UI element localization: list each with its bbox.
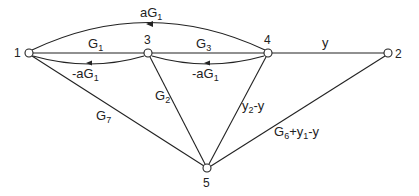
node-2 [384, 49, 392, 57]
edge-label-4-1: aG1 [140, 5, 162, 22]
arrow-icon [86, 61, 92, 66]
edge-label-4-5: y2-y [242, 98, 265, 115]
node-label-1: 1 [14, 46, 21, 60]
edge-label-3-4: G3 [196, 36, 211, 53]
edge-label-1-5: G7 [96, 108, 111, 125]
arrow-icon [204, 61, 210, 66]
node-label-3: 3 [144, 33, 151, 47]
edge-label-1-3: G1 [88, 36, 103, 53]
edge-label-4-3: -aG1 [192, 66, 219, 83]
node-1 [25, 49, 33, 57]
arrow-icon [146, 21, 153, 27]
node-5 [203, 164, 211, 172]
node-3 [144, 49, 152, 57]
edge-label-4-2: y [322, 35, 329, 50]
edge-label-3-5: G2 [155, 88, 170, 105]
edge-label-3-1: -aG1 [72, 66, 99, 83]
edge-label-2-5: G6+y1-y [274, 124, 320, 141]
node-label-5: 5 [203, 176, 210, 190]
signal-flow-graph: 1 3 4 2 5 aG1 G1 -aG1 G3 -aG1 y G7 G2 y2… [0, 0, 419, 196]
node-4 [264, 49, 272, 57]
node-label-2: 2 [395, 47, 402, 61]
node-label-4: 4 [264, 33, 271, 47]
